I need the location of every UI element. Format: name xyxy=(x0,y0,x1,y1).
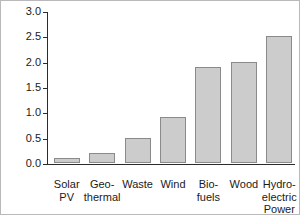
y-tick: 0.0 xyxy=(47,164,51,165)
y-tick: 2.0 xyxy=(47,63,51,64)
y-tick-label: 1.0 xyxy=(26,106,41,118)
y-tick-label: 3.0 xyxy=(26,5,41,17)
bar xyxy=(89,153,115,163)
y-tick-mark xyxy=(43,12,47,13)
y-tick-mark xyxy=(43,88,47,89)
y-tick-label: 0.5 xyxy=(26,132,41,144)
bar xyxy=(125,138,151,163)
y-tick: 2.5 xyxy=(47,37,51,38)
y-tick-label: 2.0 xyxy=(26,56,41,68)
bar-chart-figure: Quadrillion BTU 0.00.51.01.52.02.53.0 So… xyxy=(0,0,300,215)
y-tick: 1.0 xyxy=(47,113,51,114)
bar xyxy=(266,36,292,163)
category-label: Hydro- electric Power xyxy=(258,178,300,215)
y-tick-label: 1.5 xyxy=(26,81,41,93)
y-tick-mark xyxy=(43,139,47,140)
y-tick: 3.0 xyxy=(47,12,51,13)
y-tick: 0.5 xyxy=(47,139,51,140)
bar xyxy=(231,62,257,163)
bar xyxy=(54,158,80,163)
bar xyxy=(160,117,186,163)
y-tick-label: 0.0 xyxy=(26,157,41,169)
y-tick-label: 2.5 xyxy=(26,30,41,42)
y-tick-mark xyxy=(43,63,47,64)
y-tick: 1.5 xyxy=(47,88,51,89)
y-tick-mark xyxy=(43,113,47,114)
plot-area: 0.00.51.01.52.02.53.0 Solar PVGeo- therm… xyxy=(47,12,295,164)
y-tick-mark xyxy=(43,164,47,165)
y-tick-mark xyxy=(43,37,47,38)
bar xyxy=(195,67,221,163)
x-axis-line xyxy=(47,164,295,165)
